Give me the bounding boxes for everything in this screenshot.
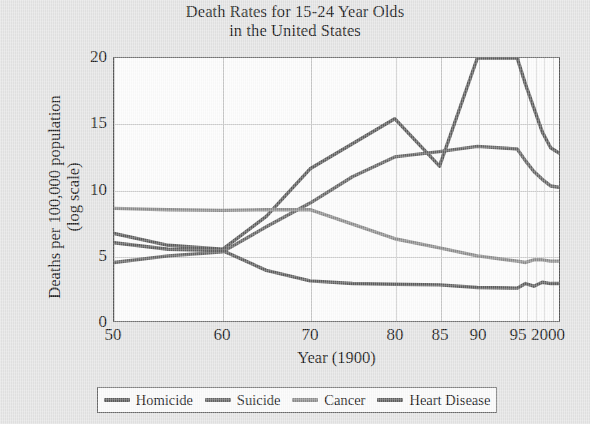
chart-series-lines [114,58,559,321]
chart-title: Death Rates for 15-24 Year Olds in the U… [0,2,590,40]
x-tick-label-80: 80 [387,326,404,344]
chart-figure: Death Rates for 15-24 Year Olds in the U… [0,0,590,424]
legend-item-homicide[interactable]: Homicide [104,393,193,408]
legend-item-heart-disease[interactable]: Heart Disease [377,393,490,408]
legend-label: Cancer [324,393,365,408]
y-tick-label-0: 0 [47,313,107,330]
chart-title-line-1: Death Rates for 15-24 Year Olds [186,2,404,21]
x-tick-label-95: 95 [510,326,527,344]
legend-swatch-icon-homicide [104,398,130,402]
legend-item-cancer[interactable]: Cancer [292,393,365,408]
y-tick-label-10: 10 [47,181,107,198]
x-tick-label-70: 70 [302,326,319,344]
y-tick-label-15: 15 [47,114,107,131]
y-tick-label-5: 5 [47,247,107,264]
x-tick-label-85: 85 [432,326,449,344]
x-tick-label-50: 50 [105,326,122,344]
chart-title-line-2: in the United States [0,21,590,40]
legend-label: Suicide [237,393,281,408]
x-tick-label-90: 90 [470,326,487,344]
legend-swatch-icon-cancer [292,398,318,402]
legend-item-suicide[interactable]: Suicide [205,393,281,408]
chart-legend: HomicideSuicideCancerHeart Disease [97,387,497,413]
legend-swatch-icon-heart-disease [377,398,403,402]
x-tick-label-2000: 2000 [531,326,565,344]
series-line-homicide [114,58,559,249]
legend-swatch-icon-suicide [205,398,231,402]
plot-area [113,57,560,322]
y-tick-label-20: 20 [47,48,107,65]
legend-label: Homicide [136,393,193,408]
x-tick-label-60: 60 [214,326,231,344]
legend-label: Heart Disease [409,393,490,408]
series-line-heart-disease [114,243,559,289]
x-axis-label: Year (1900) [113,348,560,368]
